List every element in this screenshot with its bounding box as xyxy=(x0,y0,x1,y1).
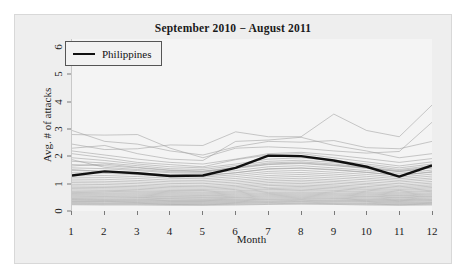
chart-figure: September 2010 − August 2011 Avg. # of a… xyxy=(14,14,452,264)
x-tick-mark xyxy=(366,211,367,215)
legend-item-label: Philippines xyxy=(102,48,152,60)
x-tick-mark xyxy=(71,211,72,215)
background-series-line xyxy=(72,122,432,157)
x-axis-label: Month xyxy=(71,233,432,245)
chart-title: September 2010 − August 2011 xyxy=(15,22,451,34)
y-axis: 0123456 xyxy=(15,39,71,211)
y-tick-label: 2 xyxy=(52,149,64,163)
x-tick-mark xyxy=(137,211,138,215)
y-tick-label: 0 xyxy=(52,204,64,218)
y-tick-label: 1 xyxy=(52,177,64,191)
legend-line-swatch xyxy=(73,53,95,55)
x-tick-mark xyxy=(399,211,400,215)
y-tick-label: 3 xyxy=(52,122,64,136)
x-tick-mark xyxy=(334,211,335,215)
legend: Philippines xyxy=(65,41,162,66)
x-tick-mark xyxy=(202,211,203,215)
y-tick-label: 6 xyxy=(52,40,64,54)
x-tick-mark xyxy=(104,211,105,215)
x-tick-mark xyxy=(432,211,433,215)
x-axis: 123456789101112 xyxy=(71,211,432,251)
x-tick-mark xyxy=(235,211,236,215)
y-tick-label: 5 xyxy=(52,67,64,81)
x-tick-mark xyxy=(301,211,302,215)
x-tick-mark xyxy=(169,211,170,215)
y-tick-label: 4 xyxy=(52,95,64,109)
x-tick-mark xyxy=(268,211,269,215)
